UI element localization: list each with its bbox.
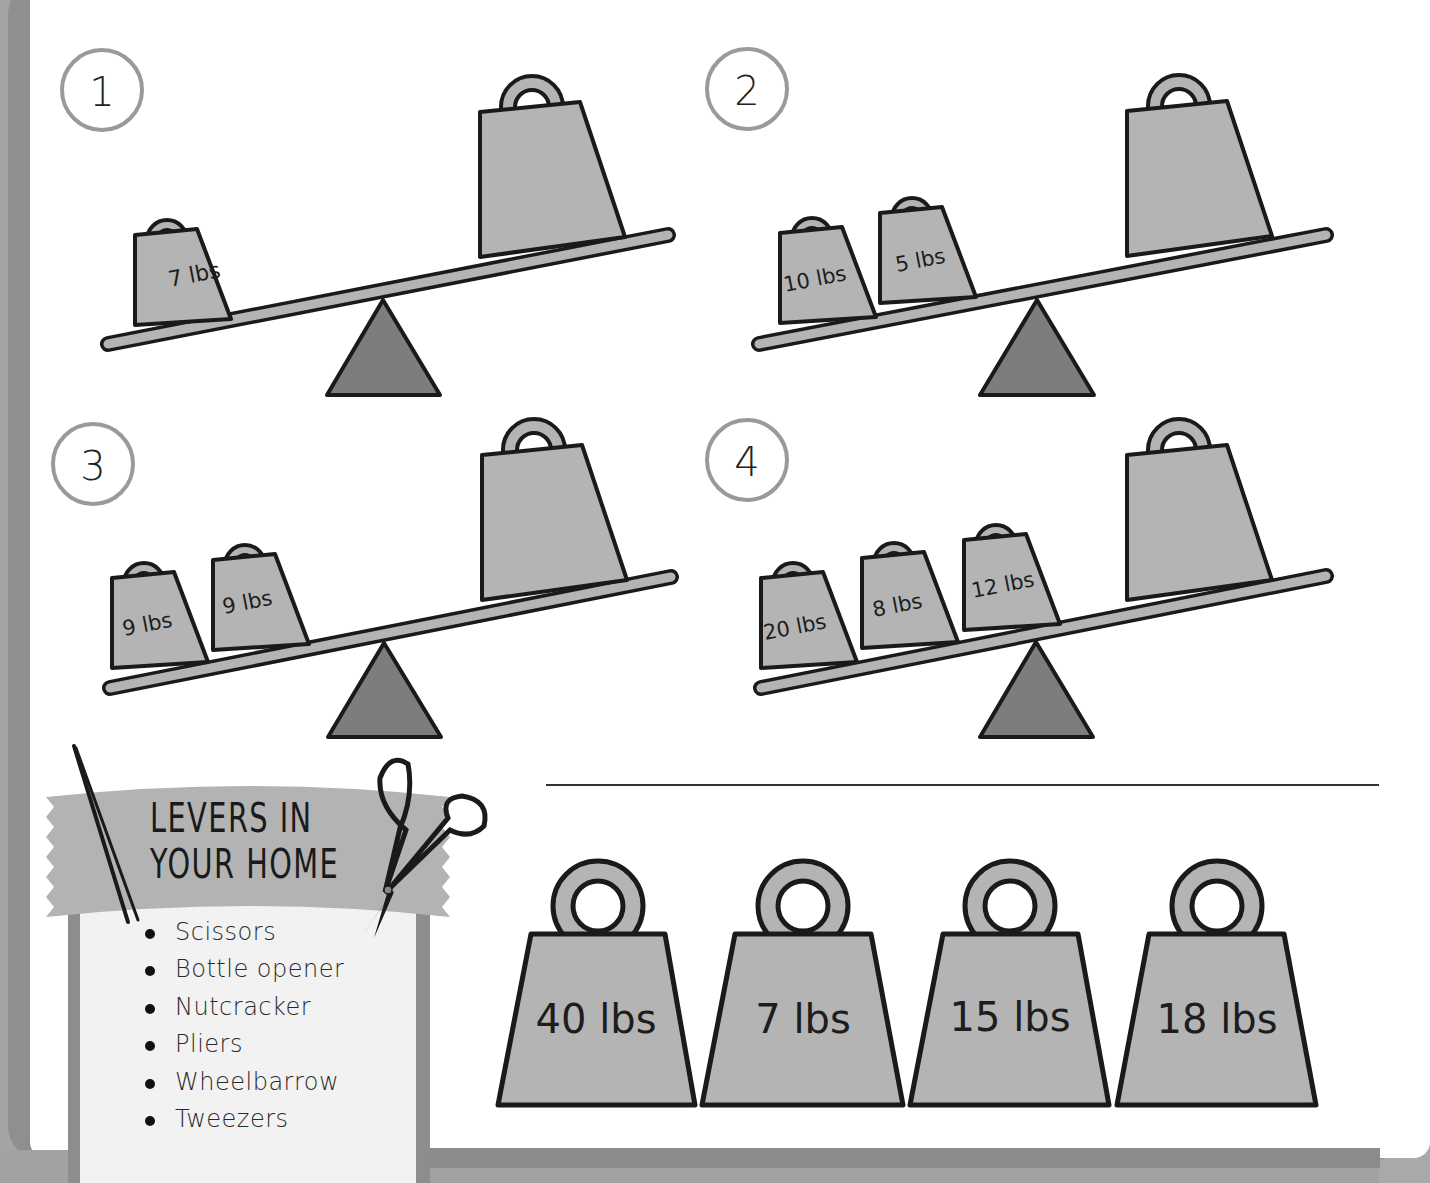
list-item: Nutcracker bbox=[145, 993, 344, 1030]
list-item: Pliers bbox=[145, 1030, 344, 1067]
problem-3: 3 9 lbs 9 lbs bbox=[53, 419, 671, 737]
weight-label: 7 lbs bbox=[755, 996, 851, 1042]
weight-label: 15 lbs bbox=[950, 994, 1071, 1040]
levers-title-line1: LEVERS IN bbox=[150, 795, 301, 841]
list-item: Bottle opener bbox=[145, 955, 344, 992]
levers-title-line2: YOUR HOME bbox=[150, 841, 301, 887]
levers-list: Scissors Bottle opener Nutcracker Pliers… bbox=[145, 918, 344, 1142]
weight-label: 18 lbs bbox=[1157, 996, 1278, 1042]
list-item: Scissors bbox=[145, 918, 344, 955]
problem-number: 2 bbox=[734, 68, 759, 114]
list-item: Tweezers bbox=[145, 1105, 344, 1142]
problem-4: 4 20 lbs 8 lbs 12 lbs bbox=[707, 419, 1326, 737]
fulcrum-icon bbox=[327, 300, 440, 395]
levers-title: LEVERS IN YOUR HOME bbox=[150, 795, 301, 887]
fulcrum-icon bbox=[980, 300, 1094, 395]
answer-weight-18[interactable]: 18 lbs bbox=[1117, 861, 1316, 1105]
section-divider bbox=[546, 784, 1379, 786]
answer-choices: 40 lbs 7 lbs 15 lbs 18 lbs bbox=[498, 861, 1316, 1105]
problem-number: 1 bbox=[89, 69, 114, 115]
fulcrum-icon bbox=[328, 643, 441, 737]
problem-1: 1 7 lbs bbox=[62, 50, 668, 395]
weight-label: 40 lbs bbox=[536, 996, 657, 1042]
problem-number: 4 bbox=[734, 439, 759, 485]
fulcrum-icon bbox=[980, 642, 1093, 737]
list-item: Wheelbarrow bbox=[145, 1068, 344, 1105]
answer-weight-40[interactable]: 40 lbs bbox=[498, 861, 695, 1105]
answer-weight-7[interactable]: 7 lbs bbox=[702, 861, 903, 1105]
answer-weight-15[interactable]: 15 lbs bbox=[910, 861, 1109, 1105]
problem-number: 3 bbox=[80, 443, 105, 489]
problem-2: 2 10 lbs 5 lbs bbox=[707, 49, 1326, 395]
